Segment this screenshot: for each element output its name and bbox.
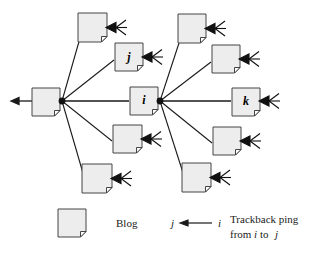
- blog-node-top-left[interactable]: [78, 13, 107, 42]
- incoming-prong-up: [249, 52, 259, 60]
- incoming-ping-mark-bottom-right: [210, 170, 231, 185]
- blog-node-root[interactable]: [32, 88, 60, 116]
- blog-page-fold: [137, 148, 143, 154]
- legend-ping-line2: from i to j: [230, 228, 278, 240]
- incoming-prong-down: [220, 178, 230, 186]
- incoming-prong-up: [250, 134, 260, 142]
- incoming-prong-down: [151, 139, 161, 147]
- incoming-prong-down: [249, 59, 259, 67]
- incoming-ping-mark-top-left: [106, 20, 127, 35]
- incoming-prong-down: [250, 141, 260, 149]
- legend-ping-j: j: [273, 228, 278, 240]
- legend-ping-from: from: [230, 228, 252, 240]
- legend-arrow-target-label: j: [169, 217, 174, 229]
- root-outgoing-arrowhead: [11, 98, 19, 105]
- legend-arrowhead: [180, 220, 188, 226]
- incoming-ping-mark-mid-low-left: [141, 132, 162, 147]
- edge-i-bottomright: [160, 101, 185, 179]
- incoming-ping-mark-bottom-left: [111, 171, 132, 186]
- blog-page-fold: [235, 68, 241, 74]
- legend-ping-to: to: [260, 228, 269, 240]
- root-outgoing-arrow: [11, 98, 32, 105]
- blog-page-fold: [102, 37, 108, 43]
- incoming-prong-down: [269, 101, 279, 109]
- incoming-ping-mark-top-right: [205, 21, 226, 36]
- blog-page-fold: [107, 188, 113, 194]
- incoming-prong-down: [116, 28, 126, 36]
- blog-node-k-label: k: [243, 94, 249, 108]
- incoming-prong-up: [121, 171, 131, 179]
- blog-page-fold: [201, 38, 207, 44]
- incoming-prong-up: [152, 50, 162, 58]
- incoming-ping-mark-mid-right: [240, 134, 261, 149]
- blog-page-fold: [153, 110, 159, 116]
- incoming-prong-up: [215, 21, 225, 29]
- blog-node-j[interactable]: j: [115, 43, 143, 71]
- blog-page-fold: [236, 150, 242, 156]
- blog-node-mid-low-left[interactable]: [113, 125, 142, 153]
- blog-node-k[interactable]: k: [232, 88, 260, 116]
- blog-node-bottom-left[interactable]: [82, 164, 112, 193]
- blog-node-i[interactable]: i: [130, 87, 158, 115]
- trackback-network-diagram: j i k: [0, 0, 315, 260]
- edge-root-topleft: [62, 38, 80, 101]
- incoming-prong-up: [116, 20, 126, 28]
- hub-dot-root: [59, 98, 66, 105]
- legend-arrow: [180, 220, 212, 226]
- diagram-canvas: j i k: [0, 0, 315, 260]
- edge-i-upperright: [160, 62, 211, 101]
- legend-ping-line1: Trackback ping: [230, 213, 299, 225]
- legend: Blog j i Trackback ping from i to j: [58, 209, 299, 240]
- edge-root-j: [62, 60, 114, 101]
- blog-node-mid-right[interactable]: [213, 127, 241, 155]
- legend-arrow-source-label: i: [218, 217, 221, 229]
- incoming-prong-up: [269, 94, 279, 102]
- incoming-prong-down: [215, 29, 225, 37]
- edge-root-midlow: [62, 101, 112, 141]
- edge-i-midright: [160, 101, 212, 143]
- incoming-prong-down: [121, 179, 131, 187]
- blog-node-upper-right[interactable]: [212, 45, 240, 73]
- edge-i-topright: [160, 40, 180, 101]
- blog-page-fold: [55, 111, 61, 117]
- blog-page-fold: [206, 187, 212, 193]
- blog-page-fold: [255, 111, 261, 117]
- incoming-prong-up: [151, 132, 161, 140]
- incoming-prong-up: [220, 170, 230, 178]
- incoming-ping-mark-k: [259, 94, 280, 109]
- blog-node-top-right[interactable]: [178, 14, 206, 43]
- incoming-ping-mark-j: [142, 50, 163, 65]
- incoming-ping-mark-upper-right: [239, 52, 260, 67]
- legend-ping-i: i: [254, 228, 257, 240]
- legend-blog-swatch: [58, 209, 86, 237]
- blog-page-fold: [81, 232, 87, 238]
- incoming-prong-down: [152, 57, 162, 65]
- blog-node-bottom-right[interactable]: [182, 163, 211, 192]
- blog-page-fold: [138, 66, 144, 72]
- legend-blog-label: Blog: [116, 217, 138, 229]
- hub-dot-i: [157, 98, 164, 105]
